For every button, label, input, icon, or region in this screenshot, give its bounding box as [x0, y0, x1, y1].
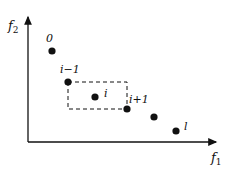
point-i-plus-1	[123, 105, 130, 112]
label-l: l	[184, 120, 188, 133]
label-0: 0	[46, 32, 53, 45]
point-l	[172, 127, 179, 134]
point-0	[48, 47, 55, 54]
label-i: i	[104, 87, 108, 100]
label-i-minus-1: i−1	[60, 63, 80, 76]
point-i-minus-1	[64, 78, 71, 85]
point-i	[91, 93, 98, 100]
crowding-distance-diagram: f2 f1 0 i−1 i i+1 l	[0, 0, 235, 169]
y-axis-label: f2	[7, 18, 19, 35]
point-next	[150, 113, 157, 120]
label-i-plus-1: i+1	[129, 93, 149, 106]
x-axis-label: f1	[210, 150, 222, 167]
